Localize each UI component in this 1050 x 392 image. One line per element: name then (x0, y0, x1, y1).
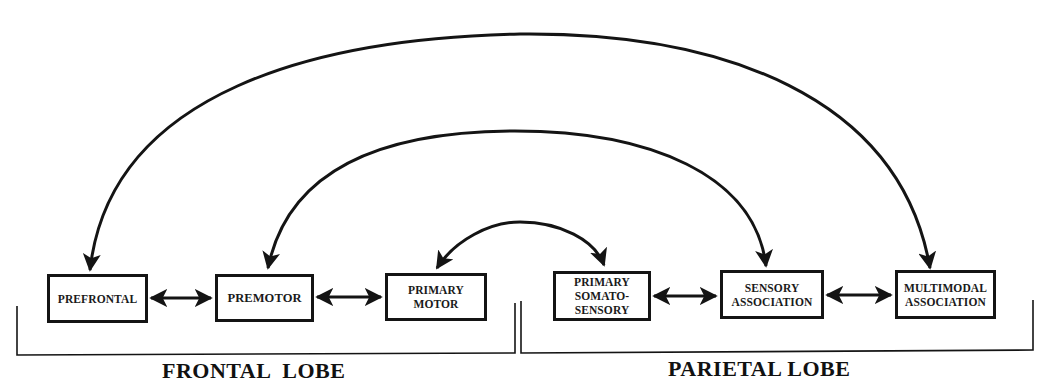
node-primary-somatosensory: PRIMARY SOMATO- SENSORY (553, 271, 651, 321)
frontal-lobe-label: FRONTAL LOBE (162, 358, 345, 384)
arc-prefrontal-multimodal (90, 34, 930, 270)
node-sensory-association: SENSORY ASSOCIATION (720, 270, 824, 319)
node-multimodal-association: MULTIMODAL ASSOCIATION (895, 270, 996, 319)
node-label-line: ASSOCIATION (905, 295, 986, 309)
arc-primary-motor-somatosensory (437, 222, 604, 268)
node-label-line: MOTOR (413, 297, 458, 311)
node-label-line: SENSORY (745, 281, 800, 295)
arc-premotor-sensory-association (268, 131, 766, 268)
node-label-line: SENSORY (575, 303, 630, 317)
node-primary-motor: PRIMARY MOTOR (385, 273, 487, 321)
node-premotor: PREMOTOR (215, 274, 314, 322)
node-label-line: PRIMARY (574, 275, 630, 289)
node-label-line: MULTIMODAL (904, 281, 987, 295)
node-label-line: SOMATO- (575, 289, 630, 303)
node-label-line: PRIMARY (408, 283, 464, 297)
node-label-line: ASSOCIATION (732, 295, 813, 309)
parietal-lobe-label: PARIETAL LOBE (668, 356, 850, 382)
connection-arrows (0, 0, 1050, 392)
node-prefrontal: PREFRONTAL (47, 274, 148, 323)
node-label: PREFRONTAL (58, 292, 137, 306)
node-label: PREMOTOR (227, 291, 301, 305)
